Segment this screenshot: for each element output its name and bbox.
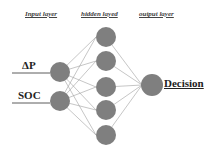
hidden-node <box>96 100 116 120</box>
input-node <box>50 91 70 111</box>
output-label-decision: Decision <box>164 77 204 89</box>
input-node <box>50 62 70 82</box>
input-label-dp: ΔP <box>22 59 36 71</box>
output-node <box>141 74 163 96</box>
hidden-node <box>96 51 116 71</box>
hidden-node <box>96 77 116 97</box>
nodes <box>50 27 163 145</box>
hidden-node <box>96 125 116 145</box>
input-label-soc: SOC <box>18 89 41 101</box>
hidden-node <box>96 27 116 47</box>
